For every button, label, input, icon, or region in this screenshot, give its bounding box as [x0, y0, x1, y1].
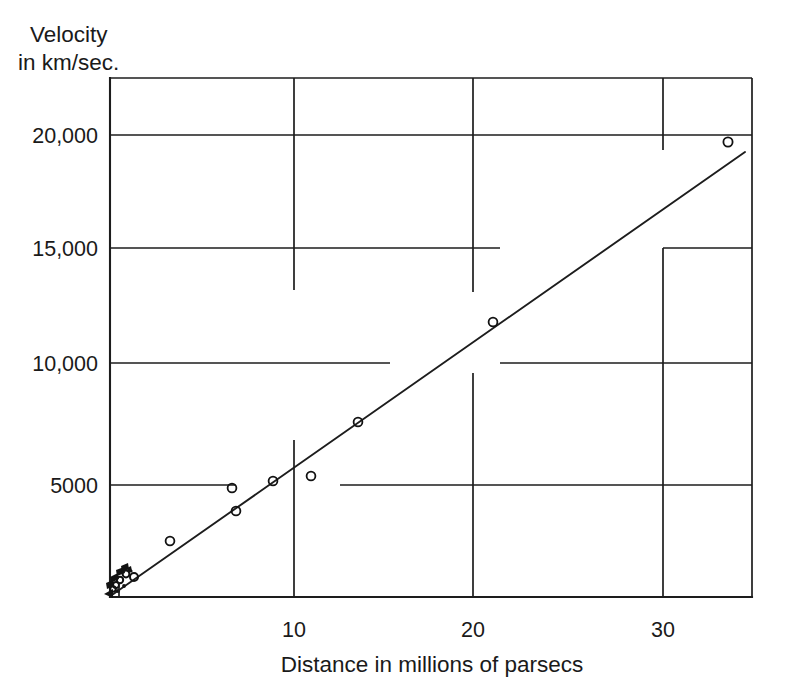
axis-titles: Velocity in km/sec. Distance in millions… — [18, 22, 583, 677]
x-axis-title: Distance in millions of parsecs — [281, 652, 584, 677]
fit-line-group — [112, 152, 745, 595]
y-tick-label-20000: 20,000 — [32, 124, 98, 148]
velocity-distance-chart: 20,000 15,000 10,000 5000 10 20 30 Veloc… — [0, 0, 788, 688]
y-axis-title-line2: in km/sec. — [18, 50, 119, 75]
y-axis-title-line1: Velocity — [30, 22, 108, 47]
data-points — [104, 137, 733, 598]
data-point-marker — [723, 137, 732, 146]
y-tick-label-5000: 5000 — [50, 474, 98, 498]
data-point-marker — [166, 537, 175, 546]
velocity-distance-fit-line — [112, 152, 745, 595]
data-point-marker — [307, 472, 316, 481]
data-point-marker — [489, 318, 498, 327]
horizontal-gridlines — [110, 135, 752, 485]
plot-frame — [110, 78, 752, 597]
y-tick-labels: 20,000 15,000 10,000 5000 — [32, 124, 98, 498]
x-tick-labels: 10 20 30 — [282, 618, 675, 642]
x-tick-label-30: 30 — [651, 618, 675, 642]
y-tick-label-10000: 10,000 — [32, 352, 98, 376]
y-tick-label-15000: 15,000 — [32, 237, 98, 261]
x-tick-label-20: 20 — [461, 618, 485, 642]
figure-root: 20,000 15,000 10,000 5000 10 20 30 Veloc… — [0, 0, 788, 688]
x-tick-label-10: 10 — [282, 618, 306, 642]
